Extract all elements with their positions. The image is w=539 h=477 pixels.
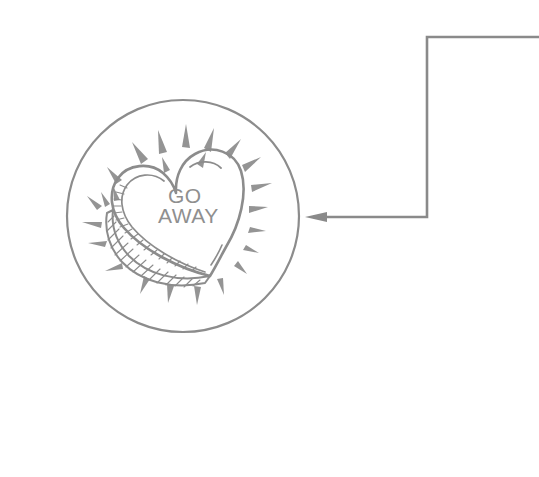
- ray-wedge: [225, 139, 241, 159]
- callout-arrow-head: [305, 212, 327, 222]
- ray-wedge: [82, 222, 102, 228]
- ray-wedge: [182, 124, 190, 148]
- ray-wedge: [194, 286, 201, 305]
- ray-wedge: [158, 130, 167, 154]
- heart-highlight-stroke: [190, 162, 221, 168]
- illustration-canvas: GO AWAY: [0, 0, 539, 477]
- ray-wedge: [167, 284, 174, 303]
- scene-root: GO AWAY: [0, 0, 539, 477]
- ray-wedge: [88, 241, 107, 247]
- ray-wedge: [162, 157, 170, 173]
- candy-text-line2: AWAY: [158, 204, 219, 227]
- ray-wedge: [249, 206, 268, 213]
- ray-wedge: [197, 152, 206, 168]
- ray-wedge: [242, 157, 261, 172]
- ray-wedge: [234, 261, 247, 274]
- ray-wedge: [101, 192, 110, 207]
- ray-wedge: [132, 142, 148, 164]
- ray-wedge: [217, 278, 224, 295]
- ray-wedge: [251, 183, 272, 192]
- ray-wedge: [248, 227, 266, 233]
- ray-wedge: [87, 196, 102, 210]
- candy-heart-group: GO AWAY: [106, 150, 243, 287]
- candy-heart-text-group: GO AWAY: [158, 184, 219, 227]
- callout-arrow-line: [313, 37, 539, 217]
- ray-wedge: [243, 245, 259, 253]
- callout-arrow-group: [305, 37, 539, 222]
- ray-wedge: [105, 263, 123, 271]
